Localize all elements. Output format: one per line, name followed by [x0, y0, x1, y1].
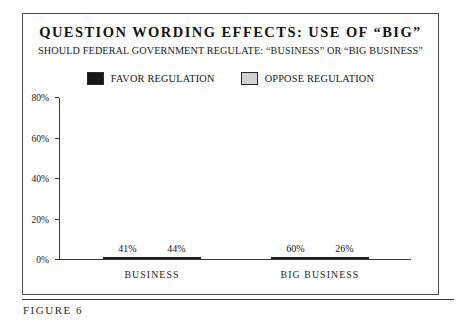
bar-group-business: 41% 44% BUSINESS: [103, 257, 201, 259]
legend-swatch-oppose-icon: [241, 72, 258, 85]
legend-item-favor: FAVOR REGULATION: [87, 72, 215, 85]
chart-legend: FAVOR REGULATION OPPOSE REGULATION: [23, 72, 438, 85]
bar-big-business-oppose[interactable]: [320, 257, 369, 259]
y-tick-label-1: 20%: [31, 213, 49, 224]
bar-group-big-business: 60% 26% BIG BUSINESS: [271, 257, 369, 259]
legend-swatch-favor-icon: [87, 72, 104, 85]
legend-label-oppose: OPPOSE REGULATION: [265, 73, 375, 84]
bars-layer: 41% 44% BUSINESS 60% 26% BIG BUS: [59, 98, 411, 260]
legend-item-oppose: OPPOSE REGULATION: [241, 72, 375, 85]
bar-wrap-big-business-oppose: 26%: [320, 257, 369, 259]
legend-label-favor: FAVOR REGULATION: [111, 73, 215, 84]
chart-title: QUESTION WORDING EFFECTS: USE OF “BIG”: [23, 24, 438, 41]
bar-value-big-business-favor: 60%: [271, 243, 320, 254]
y-tick-label-0: 0%: [36, 254, 49, 265]
bar-big-business-favor[interactable]: [271, 257, 320, 259]
bar-value-big-business-oppose: 26%: [320, 243, 369, 254]
plot-area: 0% 20% 40% 60% 80% 41% 44%: [59, 98, 411, 260]
bar-business-favor[interactable]: [103, 257, 152, 259]
title-block: QUESTION WORDING EFFECTS: USE OF “BIG” S…: [23, 24, 438, 56]
figure-caption: FIGURE 6: [23, 304, 83, 316]
bar-wrap-business-oppose: 44%: [152, 257, 201, 259]
bar-wrap-business-favor: 41%: [103, 257, 152, 259]
bar-business-oppose[interactable]: [152, 257, 201, 259]
x-axis-label-business: BUSINESS: [103, 269, 201, 280]
caption-rule: [22, 299, 454, 300]
chart-subtitle: SHOULD FEDERAL GOVERNMENT REGULATE: “BUS…: [23, 45, 438, 56]
bar-value-business-favor: 41%: [103, 243, 152, 254]
y-tick-label-4: 80%: [31, 92, 49, 103]
bar-wrap-big-business-favor: 60%: [271, 257, 320, 259]
y-tick-label-3: 60%: [31, 132, 49, 143]
x-axis-label-big-business: BIG BUSINESS: [271, 269, 369, 280]
y-tick-label-2: 40%: [31, 173, 49, 184]
figure-frame: QUESTION WORDING EFFECTS: USE OF “BIG” S…: [22, 13, 439, 295]
bar-value-business-oppose: 44%: [152, 243, 201, 254]
